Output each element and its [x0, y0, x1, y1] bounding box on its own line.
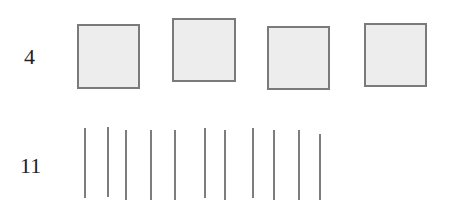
vertical-line [252, 128, 254, 198]
vertical-line [224, 130, 226, 200]
vertical-line [107, 127, 109, 197]
vertical-line [319, 134, 321, 200]
count-label-lines: 11 [20, 155, 41, 177]
square-shape [172, 18, 236, 82]
vertical-line [273, 130, 275, 200]
square-shape [364, 23, 427, 87]
square-shape [267, 26, 330, 90]
count-label-squares: 4 [24, 46, 35, 68]
vertical-line [204, 128, 206, 198]
vertical-line [84, 128, 86, 198]
vertical-line [298, 130, 300, 200]
square-shape [77, 24, 140, 89]
vertical-line [174, 130, 176, 200]
vertical-line [125, 130, 127, 200]
vertical-line [150, 130, 152, 200]
